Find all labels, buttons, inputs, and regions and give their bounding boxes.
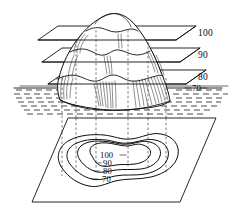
contour-map-plane (32, 118, 216, 202)
map-contour-label-70: 70 (102, 174, 111, 184)
elevation-label-90: 90 (198, 50, 208, 60)
elevation-label-70: 70 (192, 83, 201, 93)
elevation-label-80: 80 (198, 72, 208, 82)
elevation-label-100: 100 (198, 28, 213, 38)
contour-derivation-figure: 100 90 80 70 100 90 80 70 (0, 0, 237, 216)
figure-root: 100 90 80 70 100 90 80 70 (0, 0, 237, 216)
elevation-labels: 100 90 80 70 (185, 28, 213, 93)
